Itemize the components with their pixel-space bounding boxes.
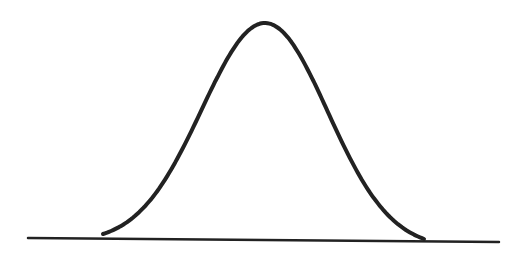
baseline-axis xyxy=(28,238,499,242)
diagram-canvas xyxy=(0,0,520,254)
bell-curve xyxy=(103,23,424,239)
bell-curve-diagram xyxy=(0,0,520,254)
